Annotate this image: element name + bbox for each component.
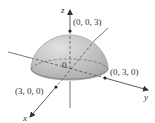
- hemisphere-surface: [31, 35, 108, 80]
- point-0-0-3: [68, 29, 71, 32]
- point-label-0-0-3: (0, 0, 3): [73, 17, 102, 27]
- y-axis-label: y: [143, 92, 148, 102]
- x-axis-back: [95, 28, 108, 40]
- z-axis-label: z: [60, 5, 65, 15]
- point-0-3-0: [103, 76, 106, 79]
- y-axis: [105, 78, 148, 90]
- point-label-0-3-0: (0, 3, 0): [110, 67, 139, 77]
- origin-label: 0: [62, 60, 67, 70]
- hemisphere-diagram: z y x 0 (0, 0, 3) (0, 3, 0) (3, 0, 0): [0, 0, 155, 123]
- x-axis-label: x: [22, 113, 27, 123]
- y-axis-back: [8, 52, 31, 58]
- point-3-0-0: [54, 85, 57, 88]
- point-label-3-0-0: (3, 0, 0): [15, 86, 44, 96]
